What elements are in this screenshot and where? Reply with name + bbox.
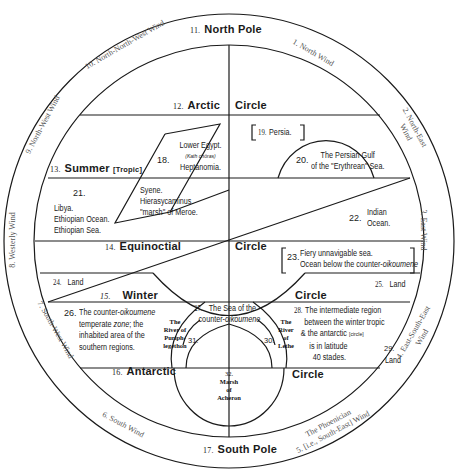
region-24-num: 24. bbox=[53, 278, 62, 287]
south-pole-label: 17.South Pole bbox=[203, 444, 277, 456]
region-32-line1: Marsh bbox=[214, 378, 244, 386]
region-28-line2: between the winter tropic bbox=[304, 317, 384, 329]
winter-label-left: 15.Winter bbox=[100, 290, 158, 302]
region-18b-line1: Syene. bbox=[140, 185, 198, 196]
region-30-num: 30. bbox=[264, 335, 274, 346]
region-22-text: Indian Ocean. bbox=[367, 207, 390, 229]
region-25-num: 25. bbox=[375, 280, 384, 289]
region-32-line2: of bbox=[214, 386, 244, 394]
wind-3-label: 3. East Wind bbox=[418, 209, 428, 250]
region-26-line1-ital: oikoumene bbox=[120, 307, 155, 317]
region-26-line3: inhabited area of the bbox=[79, 330, 155, 342]
region-23-line2-ital: oikoumene bbox=[383, 259, 418, 269]
equinoctial-text: Equinoctial bbox=[120, 240, 181, 252]
region-32-num: 32. bbox=[214, 370, 244, 378]
region-26-text: The counter-oikoumene temperate zone; th… bbox=[79, 307, 155, 353]
region-18b-text: Syene. Hierasycaminus. "marsh" of Meroe. bbox=[140, 185, 198, 218]
region-30-line1: The bbox=[275, 318, 297, 326]
region-28-line5: 40 stades. bbox=[313, 352, 385, 364]
equinoctial-num: 14. bbox=[105, 243, 116, 252]
wind-8-label: 8. Westerly Wind bbox=[8, 212, 18, 267]
region-21-line2: Ethiopian Ocean. bbox=[54, 214, 109, 225]
region-30-line4: Lethe bbox=[275, 342, 297, 350]
winter-num: 15. bbox=[100, 292, 111, 301]
region-18b-line2: Hierasycaminus. bbox=[140, 196, 198, 207]
region-22-line1: Indian bbox=[367, 207, 390, 218]
region-20-line1: The Persian Gulf bbox=[311, 150, 384, 161]
zones-diagram: 11.North Pole 17.South Pole 12.Arctic Ci… bbox=[0, 0, 457, 474]
region-27-line1: The Sea of the bbox=[209, 303, 256, 313]
region-23-line1: Fiery unnavigable sea. bbox=[300, 248, 418, 259]
region-30-text: The River of Lethe bbox=[275, 318, 297, 350]
antarctic-num: 16. bbox=[112, 368, 123, 377]
region-26-line2-ital: zone bbox=[114, 319, 130, 329]
region-30-line2: River bbox=[275, 326, 297, 334]
tropic-tag: [Tropic] bbox=[113, 165, 142, 174]
region-32-line3: Acheron bbox=[214, 394, 244, 402]
region-31-line4: legethon bbox=[161, 342, 189, 350]
region-23-line2-pre: Ocean below the counter- bbox=[300, 259, 383, 269]
equinoctial-label-right: Circle bbox=[235, 241, 267, 252]
north-pole-text: North Pole bbox=[204, 23, 262, 35]
summer-tropic-label: 13.Summer [Tropic] bbox=[50, 163, 142, 175]
region-24-label: 24.Land bbox=[53, 277, 84, 288]
region-21-line1: Libya. bbox=[54, 203, 109, 214]
summer-num: 13. bbox=[50, 165, 61, 174]
region-23-num: 23. bbox=[287, 252, 300, 263]
region-26-line2-post: ; the bbox=[129, 319, 143, 329]
region-21-num: 21. bbox=[73, 188, 86, 199]
region-28-text: 28.The intermediate region between the w… bbox=[294, 305, 385, 364]
arctic-num: 12. bbox=[173, 102, 184, 111]
region-22-num: 22. bbox=[349, 213, 362, 224]
region-18b-line3: "marsh" of Meroe. bbox=[140, 207, 198, 218]
region-31-line1: The bbox=[161, 318, 189, 326]
region-31-line2: River of bbox=[161, 326, 189, 334]
region-25-text: Land bbox=[389, 279, 405, 289]
region-19-num: 19. bbox=[258, 128, 267, 137]
region-25-label: 25.Land bbox=[375, 279, 406, 290]
region-18-line3: Heptanomia. bbox=[175, 162, 226, 173]
winter-text: Winter bbox=[123, 289, 158, 301]
region-21-line3: Ethiopian Sea. bbox=[54, 225, 109, 236]
summer-text: Summer bbox=[65, 162, 110, 174]
region-29-text: Land bbox=[385, 355, 401, 366]
region-28-num: 28. bbox=[294, 306, 303, 315]
region-20-line2: of the "Erythrean" Sea. bbox=[311, 161, 384, 172]
region-18-line2: (Kath chōras) bbox=[175, 151, 226, 162]
region-30-line3: of bbox=[275, 334, 297, 342]
south-pole-text: South Pole bbox=[218, 443, 277, 455]
antarctic-label-left: 16.Antarctic bbox=[112, 366, 176, 378]
region-26-line2-pre: temperate bbox=[79, 319, 114, 329]
region-31-text: The River of Puriph- legethon bbox=[161, 318, 189, 350]
arctic-text: Arctic bbox=[188, 99, 220, 111]
arctic-circle-label-left: 12.Arctic bbox=[173, 100, 220, 112]
region-26-num: 26. bbox=[64, 308, 77, 319]
region-27-line2-pre: counter- bbox=[199, 314, 226, 324]
region-24-text: Land bbox=[67, 277, 83, 287]
equinoctial-label-left: 14.Equinoctial bbox=[105, 241, 181, 253]
region-31-num: 31. bbox=[188, 335, 198, 346]
region-20-text: The Persian Gulf of the "Erythrean" Sea. bbox=[311, 150, 384, 172]
north-pole-num: 11. bbox=[190, 26, 200, 35]
region-18-line1: Lower Egypt. bbox=[175, 140, 226, 151]
region-20-num: 20. bbox=[296, 155, 309, 166]
arctic-circle-label-right: Circle bbox=[235, 100, 267, 111]
region-18-text: Lower Egypt. (Kath chōras) Heptanomia. bbox=[175, 140, 226, 173]
region-19-label: 19.Persia. bbox=[258, 127, 292, 138]
region-29-num: 29. bbox=[384, 343, 394, 354]
region-28-line3-pre: & the antarctic bbox=[301, 328, 349, 338]
region-28-line3-small: [circle] bbox=[349, 331, 364, 337]
winter-label-right: Circle bbox=[295, 290, 327, 301]
region-26-line1-pre: The counter- bbox=[79, 307, 120, 317]
region-21-text: Libya. Ethiopian Ocean. Ethiopian Sea. bbox=[54, 203, 109, 236]
diagram-lines bbox=[0, 0, 457, 474]
south-pole-num: 17. bbox=[203, 446, 214, 455]
region-28-line4: is in latitude bbox=[309, 341, 384, 353]
antarctic-label-right: Circle bbox=[292, 369, 324, 380]
region-18-num: 18. bbox=[157, 155, 170, 166]
antarctic-text: Antarctic bbox=[127, 365, 176, 377]
region-27-line2-ital: oikoumene bbox=[225, 314, 260, 324]
region-19-text: Persia. bbox=[269, 127, 291, 137]
region-27-text: 27.The Sea of the counter-oikoumene bbox=[190, 303, 260, 325]
region-28-line1: The intermediate region bbox=[305, 305, 381, 315]
